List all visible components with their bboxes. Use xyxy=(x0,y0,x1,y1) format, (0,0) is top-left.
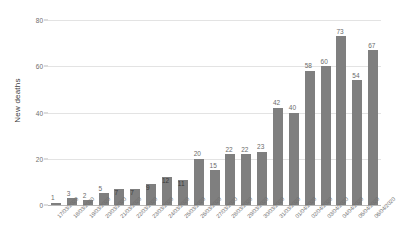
bar[interactable]: 1 xyxy=(51,203,61,205)
bar-slot: 22 xyxy=(222,20,238,205)
bar-slot: 3 xyxy=(64,20,80,205)
bar[interactable]: 54 xyxy=(352,80,362,205)
bar-slot: 11 xyxy=(175,20,191,205)
bar-value-label: 23 xyxy=(257,144,264,151)
bar-value-label: 7 xyxy=(114,190,118,197)
y-tick-label-40: 40 xyxy=(36,109,43,116)
bar-value-label: 22 xyxy=(241,147,248,154)
bar[interactable]: 60 xyxy=(321,66,331,205)
bar-slot: 7 xyxy=(111,20,127,205)
bar-value-label: 42 xyxy=(273,100,280,107)
bar-series: 13257791211201522222342405860735467 xyxy=(48,20,381,205)
bar-value-label: 58 xyxy=(305,63,312,70)
bar[interactable]: 67 xyxy=(368,50,378,205)
bar-slot: 67 xyxy=(365,20,381,205)
bar-slot: 12 xyxy=(159,20,175,205)
bar-slot: 9 xyxy=(143,20,159,205)
bar-slot: 40 xyxy=(286,20,302,205)
bar-value-label: 20 xyxy=(194,151,201,158)
bar-slot: 2 xyxy=(80,20,96,205)
bar-value-label: 67 xyxy=(368,43,375,50)
x-axis-tick-labels: 17/03/202018/03/202019/03/202020/03/2020… xyxy=(48,206,381,249)
y-tick-label-20: 20 xyxy=(36,155,43,162)
y-tick-label-60: 60 xyxy=(36,63,43,70)
bar-value-label: 12 xyxy=(162,178,169,185)
bar-slot: 20 xyxy=(191,20,207,205)
plot-area: 020406080 132577912112015222223424058607… xyxy=(48,20,381,205)
bar-value-label: 3 xyxy=(67,191,71,198)
bar-value-label: 54 xyxy=(352,73,359,80)
bar-slot: 42 xyxy=(270,20,286,205)
bar-value-label: 40 xyxy=(289,105,296,112)
bar-slot: 5 xyxy=(96,20,112,205)
bar-slot: 58 xyxy=(302,20,318,205)
bar-value-label: 7 xyxy=(130,190,134,197)
bar[interactable]: 58 xyxy=(305,71,315,205)
bar-slot: 1 xyxy=(48,20,64,205)
bar-value-label: 2 xyxy=(83,193,87,200)
bar-slot: 23 xyxy=(254,20,270,205)
bar[interactable]: 42 xyxy=(273,108,283,205)
bar-slot: 60 xyxy=(318,20,334,205)
bar-slot: 7 xyxy=(127,20,143,205)
bar-slot: 73 xyxy=(333,20,349,205)
y-axis-title: New deaths xyxy=(13,58,22,144)
bar[interactable]: 73 xyxy=(336,36,346,205)
bar-value-label: 22 xyxy=(225,147,232,154)
bar-value-label: 60 xyxy=(321,59,328,66)
y-tick-label-80: 80 xyxy=(36,17,43,24)
bar-slot: 22 xyxy=(238,20,254,205)
bar-slot: 15 xyxy=(207,20,223,205)
bar-value-label: 11 xyxy=(178,181,185,188)
bar-value-label: 73 xyxy=(336,29,343,36)
bar[interactable]: 40 xyxy=(289,113,299,206)
bar-value-label: 15 xyxy=(210,163,217,170)
y-tick-label-0: 0 xyxy=(39,202,43,209)
bar-value-label: 1 xyxy=(51,195,55,202)
bar-value-label: 9 xyxy=(146,185,150,192)
bar-slot: 54 xyxy=(349,20,365,205)
bar-value-label: 5 xyxy=(99,186,103,193)
